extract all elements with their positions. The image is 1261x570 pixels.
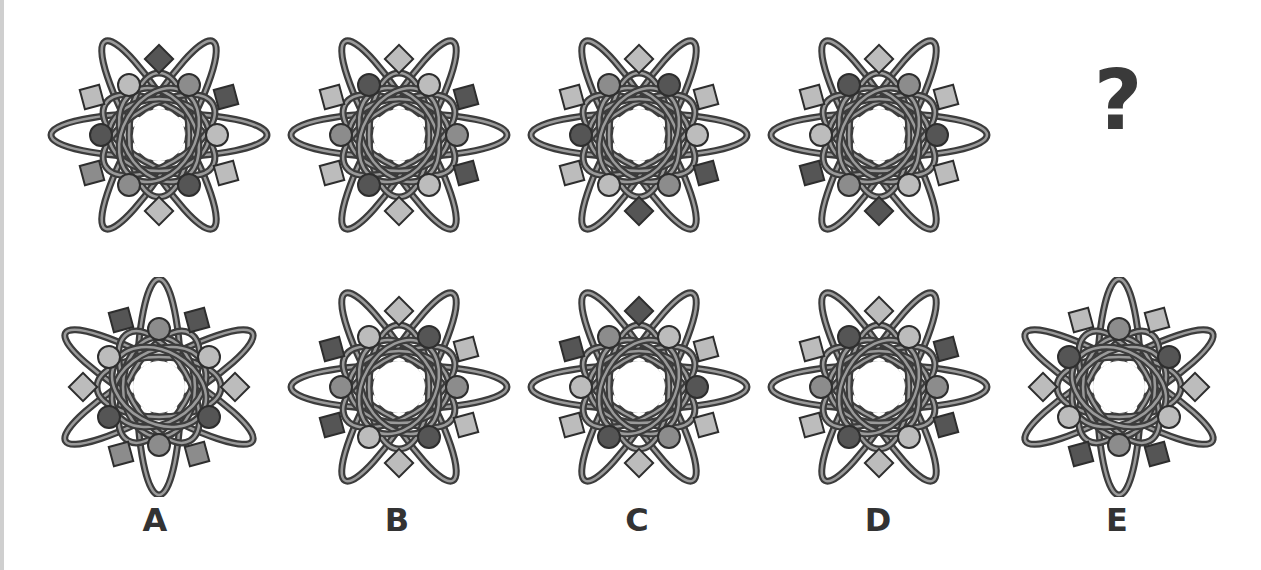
diamond-top xyxy=(865,45,893,73)
square-lower-left xyxy=(320,161,344,185)
circle-left xyxy=(570,376,592,398)
circle-upper-right xyxy=(658,74,680,96)
circle-upper-left xyxy=(838,74,860,96)
sequence-figure-3 xyxy=(519,25,759,245)
circle-bottom xyxy=(148,434,170,456)
sequence-figure-4 xyxy=(759,25,999,245)
circle-lower-right xyxy=(658,426,680,448)
diamond-left xyxy=(69,373,97,401)
option-label-e[interactable]: E xyxy=(1087,500,1147,540)
diamond-bottom xyxy=(865,449,893,477)
diamond-bottom xyxy=(145,197,173,225)
square-top-left xyxy=(1069,308,1093,332)
diamond-top xyxy=(625,45,653,73)
sequence-figure-1 xyxy=(39,25,279,245)
circle-left xyxy=(330,376,352,398)
circle-lower-left xyxy=(838,426,860,448)
circle-upper-right xyxy=(418,326,440,348)
circle-upper-right xyxy=(898,74,920,96)
square-lower-right xyxy=(694,413,718,437)
circle-upper-left xyxy=(118,74,140,96)
option-label-d[interactable]: D xyxy=(848,500,908,540)
square-lower-left xyxy=(320,413,344,437)
circle-lower-left xyxy=(838,174,860,196)
square-upper-right xyxy=(214,85,238,109)
circle-lower-right xyxy=(418,426,440,448)
diamond-bottom xyxy=(625,449,653,477)
option-figure-d[interactable] xyxy=(759,277,999,497)
circle-bottom xyxy=(1108,434,1130,456)
circle-right xyxy=(446,124,468,146)
circle-upper-right xyxy=(1158,346,1180,368)
circle-lower-right xyxy=(898,174,920,196)
square-upper-left xyxy=(320,337,344,361)
left-edge-strip xyxy=(0,0,4,570)
square-lower-right xyxy=(454,413,478,437)
square-bottom-left xyxy=(1069,442,1093,466)
square-upper-right xyxy=(934,85,958,109)
diamond-top xyxy=(145,45,173,73)
circle-right xyxy=(686,376,708,398)
square-upper-right xyxy=(694,85,718,109)
circle-left xyxy=(810,376,832,398)
circle-left xyxy=(810,124,832,146)
diamond-left xyxy=(1029,373,1057,401)
diamond-bottom xyxy=(865,197,893,225)
circle-right xyxy=(446,376,468,398)
diamond-top xyxy=(625,297,653,325)
square-upper-left xyxy=(800,337,824,361)
diamond-top xyxy=(865,297,893,325)
circle-lower-left xyxy=(98,406,120,428)
square-lower-left xyxy=(800,161,824,185)
sequence-figure-2 xyxy=(279,25,519,245)
circle-lower-left xyxy=(1058,406,1080,428)
circle-lower-right xyxy=(198,406,220,428)
circle-lower-left xyxy=(358,426,380,448)
circle-lower-right xyxy=(1158,406,1180,428)
circle-upper-left xyxy=(358,326,380,348)
missing-figure-question-mark: ? xyxy=(1078,55,1158,145)
square-lower-left xyxy=(560,413,584,437)
circle-right xyxy=(206,124,228,146)
diamond-top xyxy=(385,297,413,325)
square-lower-right xyxy=(454,161,478,185)
circle-top xyxy=(148,318,170,340)
diamond-bottom xyxy=(385,449,413,477)
circle-upper-left xyxy=(598,74,620,96)
square-lower-left xyxy=(800,413,824,437)
diamond-top xyxy=(385,45,413,73)
option-label-a[interactable]: A xyxy=(125,500,185,540)
square-upper-left xyxy=(80,85,104,109)
square-lower-left xyxy=(560,161,584,185)
square-lower-right xyxy=(934,161,958,185)
square-upper-right xyxy=(694,337,718,361)
option-label-c[interactable]: C xyxy=(607,500,667,540)
option-figure-c[interactable] xyxy=(519,277,759,497)
square-lower-right xyxy=(214,161,238,185)
diamond-bottom xyxy=(625,197,653,225)
circle-lower-right xyxy=(178,174,200,196)
square-upper-left xyxy=(320,85,344,109)
option-figure-b[interactable] xyxy=(279,277,519,497)
square-top-left xyxy=(109,308,133,332)
circle-left xyxy=(330,124,352,146)
square-upper-right xyxy=(454,85,478,109)
circle-upper-left xyxy=(1058,346,1080,368)
square-upper-left xyxy=(800,85,824,109)
circle-upper-left xyxy=(98,346,120,368)
square-top-right xyxy=(1145,308,1169,332)
circle-right xyxy=(926,124,948,146)
square-upper-right xyxy=(454,337,478,361)
circle-lower-left xyxy=(118,174,140,196)
diamond-bottom xyxy=(385,197,413,225)
option-figure-e[interactable] xyxy=(999,277,1239,497)
square-upper-right xyxy=(934,337,958,361)
circle-lower-right xyxy=(658,174,680,196)
option-label-b[interactable]: B xyxy=(367,500,427,540)
circle-left xyxy=(90,124,112,146)
circle-top xyxy=(1108,318,1130,340)
option-figure-a[interactable] xyxy=(39,277,279,497)
circle-upper-right xyxy=(658,326,680,348)
square-bottom-right xyxy=(185,442,209,466)
circle-lower-right xyxy=(418,174,440,196)
